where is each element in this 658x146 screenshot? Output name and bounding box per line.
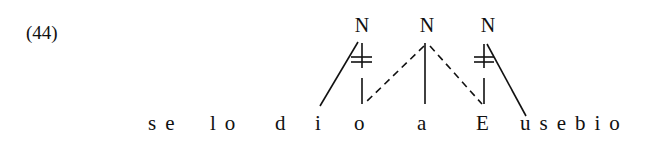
segment-i: i (315, 111, 330, 136)
segment-lo: lo (210, 111, 244, 136)
segment-se: se (148, 111, 184, 136)
link-n3-u (487, 44, 526, 116)
segment-o: o (354, 111, 374, 136)
segment-a: a (417, 111, 435, 136)
segment-E: E (476, 111, 498, 136)
link-n1-i (320, 42, 358, 106)
segment-d: d (275, 111, 295, 136)
segment-usebio: usebio (520, 111, 629, 136)
link-n2-o (364, 46, 424, 104)
link-n2-e (430, 46, 482, 104)
